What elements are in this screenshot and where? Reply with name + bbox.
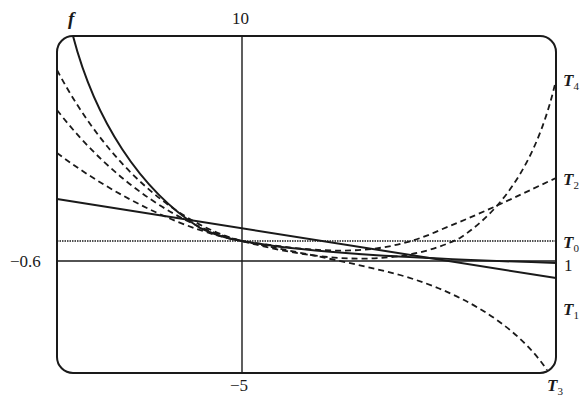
series-f bbox=[73, 36, 556, 263]
legend-t4: T4 bbox=[563, 72, 579, 92]
series-t1 bbox=[57, 199, 556, 278]
series-t2 bbox=[57, 153, 556, 251]
legend-t0: T0 bbox=[563, 234, 579, 254]
legend-t2: T2 bbox=[563, 171, 579, 191]
series-t3 bbox=[57, 110, 547, 370]
tick-label-10: 10 bbox=[232, 10, 249, 27]
tick-label-neg-0-6: −0.6 bbox=[10, 253, 41, 270]
legend-t3: T3 bbox=[547, 377, 563, 397]
plot-frame bbox=[57, 36, 556, 373]
legend-t1: T1 bbox=[563, 301, 579, 321]
y-axis-label-f: f bbox=[68, 9, 74, 28]
plot-canvas bbox=[0, 0, 587, 403]
legend-one: 1 bbox=[564, 257, 573, 274]
tick-label-neg-5: −5 bbox=[230, 377, 248, 394]
